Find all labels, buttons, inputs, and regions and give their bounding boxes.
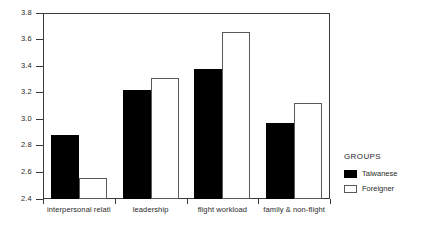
y-axis-tick <box>36 66 43 67</box>
x-axis-tick <box>187 199 188 204</box>
bar-foreigner <box>151 78 179 199</box>
legend-swatch-icon-foreigner <box>344 185 357 193</box>
legend-swatch-icon-taiwanese <box>344 170 357 178</box>
bar-taiwanese <box>194 69 222 199</box>
y-axis-tick-label: 3.4 <box>0 62 32 70</box>
y-axis-tick <box>36 92 43 93</box>
y-axis-tick-label: 3.6 <box>0 35 32 43</box>
legend-label-taiwanese: Taiwanese <box>362 169 397 178</box>
y-axis-tick <box>36 13 43 14</box>
bar-taiwanese <box>123 90 151 199</box>
y-axis-tick <box>36 172 43 173</box>
x-axis-tick <box>43 199 44 204</box>
y-axis-tick <box>36 119 43 120</box>
bar-foreigner <box>222 32 250 199</box>
y-axis-tick-label: 3.0 <box>0 115 32 123</box>
bar-chart: 2.42.62.83.03.23.43.63.8 interpersonal r… <box>0 0 421 231</box>
y-axis-tick-label: 2.6 <box>0 168 32 176</box>
y-axis-tick-label: 2.8 <box>0 141 32 149</box>
bars-layer <box>43 13 330 199</box>
bar-foreigner <box>294 103 322 199</box>
y-axis-tick-label: 2.4 <box>0 195 32 203</box>
x-axis-tick-label: flight workload <box>187 205 259 214</box>
x-axis-tick-label: leadership <box>115 205 187 214</box>
bar-taiwanese <box>266 123 294 199</box>
legend-item-foreigner: Foreigner <box>344 182 420 195</box>
x-axis-tick-label: family & non-flight <box>258 205 330 214</box>
bar-taiwanese <box>51 135 79 199</box>
x-axis-tick <box>258 199 259 204</box>
y-axis-tick <box>36 199 43 200</box>
legend-item-taiwanese: Taiwanese <box>344 167 420 180</box>
legend-title: GROUPS <box>344 152 420 162</box>
y-axis-tick <box>36 39 43 40</box>
y-axis-tick-label: 3.8 <box>0 9 32 17</box>
legend-label-foreigner: Foreigner <box>362 184 394 193</box>
x-axis-tick <box>330 199 331 204</box>
x-axis-tick-label: interpersonal relati <box>43 205 115 214</box>
bar-foreigner <box>79 178 107 199</box>
x-axis-tick <box>115 199 116 204</box>
y-axis-tick-label: 3.2 <box>0 88 32 96</box>
legend: GROUPS Taiwanese Foreigner <box>344 152 420 197</box>
y-axis-tick <box>36 145 43 146</box>
